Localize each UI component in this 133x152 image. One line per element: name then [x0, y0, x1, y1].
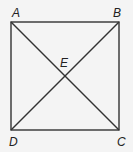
- label-c: C: [117, 135, 126, 149]
- geometry-diagram: A B E D C: [0, 0, 133, 152]
- label-d: D: [9, 135, 18, 149]
- label-a: A: [11, 6, 20, 20]
- label-e: E: [60, 56, 69, 70]
- label-b: B: [113, 6, 121, 20]
